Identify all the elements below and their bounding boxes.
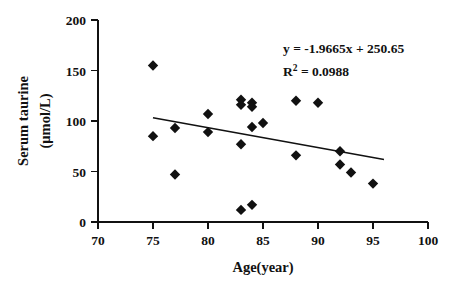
x-tick-label-75: 75 [146, 233, 160, 248]
data-point-marker [291, 96, 301, 106]
x-axis-title: Age(year) [232, 259, 293, 276]
data-point-marker [148, 131, 158, 141]
regression-annotation: y = -1.9665x + 250.65 R2 = 0.0988 [283, 41, 404, 79]
x-tick-label-70: 70 [91, 233, 105, 248]
y-tick-label-150: 150 [66, 64, 87, 79]
data-point-marker [258, 118, 268, 128]
data-point-marker [247, 122, 257, 132]
x-tick-label-85: 85 [256, 233, 270, 248]
data-point-marker [335, 146, 345, 156]
y-tick-label-100: 100 [66, 114, 87, 129]
y-axis-title-line1: Serum taurine [15, 76, 31, 166]
data-point-marker [313, 98, 323, 108]
y-axis-title-line2: (μmol/L) [37, 93, 54, 148]
data-point-marker [170, 169, 180, 179]
r-squared-label: R2 = 0.0988 [283, 63, 349, 79]
data-point-marker [335, 159, 345, 169]
r-squared-value: = 0.0988 [298, 64, 350, 79]
y-tick-label-200: 200 [66, 13, 87, 28]
x-tick-label-100: 100 [418, 233, 439, 248]
y-axis-ticks [91, 20, 98, 222]
scatter-chart-figure: 200 150 100 50 0 70 75 80 85 90 95 100 [0, 0, 468, 287]
x-axis-ticks [98, 222, 428, 229]
data-point-marker [148, 60, 158, 70]
x-tick-label-95: 95 [366, 233, 380, 248]
data-point-marker [170, 123, 180, 133]
x-tick-label-90: 90 [311, 233, 325, 248]
regression-equation-label: y = -1.9665x + 250.65 [283, 41, 404, 56]
data-point-marker [247, 200, 257, 210]
r-squared-base: R [283, 64, 293, 79]
data-point-marker [203, 109, 213, 119]
x-axis-tick-labels: 70 75 80 85 90 95 100 [91, 233, 438, 248]
y-axis-tick-labels: 200 150 100 50 0 [66, 13, 87, 230]
data-point-marker [236, 205, 246, 215]
y-tick-label-0: 0 [79, 215, 86, 230]
data-point-marker [346, 167, 356, 177]
y-tick-label-50: 50 [73, 165, 87, 180]
data-point-marker [236, 139, 246, 149]
regression-trend-line [153, 118, 384, 160]
data-point-marker [368, 178, 378, 188]
data-point-marker [291, 150, 301, 160]
x-tick-label-80: 80 [201, 233, 215, 248]
chart-canvas: 200 150 100 50 0 70 75 80 85 90 95 100 [0, 0, 468, 287]
